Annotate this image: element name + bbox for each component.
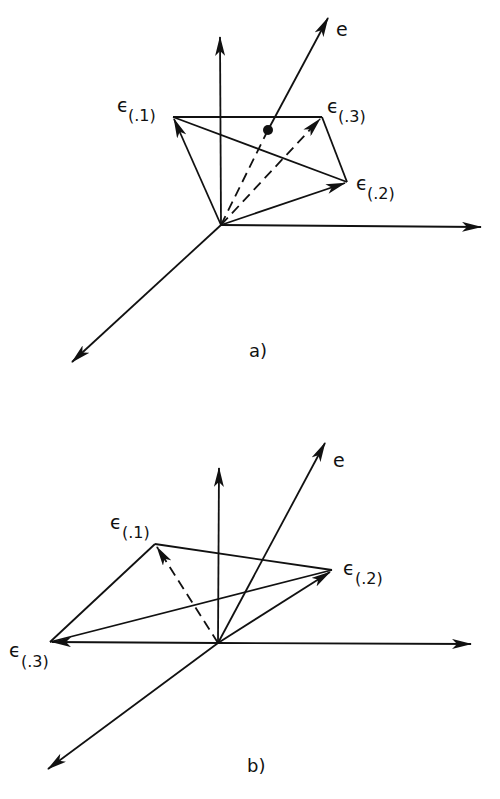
vector-eps1-b — [157, 547, 218, 643]
intersection-dot-a — [263, 125, 273, 135]
label-eps2-a-symbol: ϵ — [356, 172, 368, 194]
edge-eps3-eps2-a — [322, 117, 347, 182]
vector-e-a — [268, 18, 328, 130]
axis-vertical-b — [218, 468, 219, 643]
vector-eps1-a — [174, 119, 221, 225]
panel-b: e ϵ (.1) ϵ (.2) ϵ (.3) b) — [9, 443, 471, 776]
caption-a: a) — [249, 340, 267, 361]
label-eps1-b: ϵ (.1) — [110, 511, 150, 542]
vector-eps3-b — [52, 642, 218, 643]
label-eps2-b: ϵ (.2) — [343, 557, 383, 588]
label-eps1-a-subscript: (.1) — [128, 106, 156, 125]
panel-a: e ϵ (.1) ϵ (.3) ϵ (.2) a) — [72, 18, 481, 362]
label-eps2-b-symbol: ϵ — [343, 557, 355, 579]
axis-horizontal-a — [221, 225, 481, 227]
axis-vertical-a — [220, 37, 221, 225]
label-eps3-b: ϵ (.3) — [9, 639, 49, 671]
edge-eps1-eps2-b — [155, 544, 332, 570]
label-eps2-b-subscript: (.2) — [355, 569, 383, 588]
vector-eps2-b — [218, 572, 330, 643]
label-eps3-b-symbol: ϵ — [9, 639, 21, 661]
label-eps2-a-subscript: (.2) — [367, 184, 395, 203]
label-eps1-b-symbol: ϵ — [110, 511, 122, 533]
axis-depth-b — [48, 643, 218, 769]
label-eps1-a-symbol: ϵ — [117, 94, 129, 116]
vector-e-b — [218, 443, 325, 643]
label-e-a: e — [336, 18, 348, 40]
figure: e ϵ (.1) ϵ (.3) ϵ (.2) a) e ϵ — [0, 0, 500, 799]
label-eps3-b-subscript: (.3) — [21, 652, 49, 671]
label-eps3-a-symbol: ϵ — [327, 95, 339, 117]
axis-depth-a — [72, 225, 221, 362]
label-eps1-b-subscript: (.1) — [122, 523, 150, 542]
label-eps1-a: ϵ (.1) — [117, 94, 156, 125]
axis-horizontal-b — [218, 643, 471, 644]
label-e-b: e — [333, 449, 345, 471]
edge-eps1-eps3-b — [50, 544, 155, 642]
edge-eps1-eps2-a — [173, 117, 347, 182]
label-eps3-a: ϵ (.3) — [327, 95, 366, 126]
label-eps3-a-subscript: (.3) — [338, 107, 366, 126]
label-eps2-a: ϵ (.2) — [356, 172, 395, 203]
caption-b: b) — [247, 755, 265, 776]
edge-eps3-eps2-b — [50, 570, 332, 642]
